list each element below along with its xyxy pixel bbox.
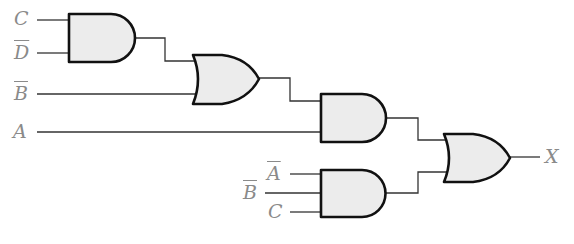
output-label-x: X (545, 147, 559, 166)
input-label-a-bar: A (267, 164, 281, 183)
and-gate-1 (69, 14, 135, 62)
wire-and1-to-or1 (135, 38, 196, 61)
wire-and3-to-or2 (386, 172, 447, 193)
input-label-d-bar: D (14, 43, 29, 62)
and-gate-2 (321, 94, 386, 142)
input-label-c: C (14, 9, 29, 28)
input-label-c-2: C (268, 202, 283, 221)
or-gate-2 (444, 134, 510, 182)
input-label-b-bar: B (14, 84, 28, 103)
or-gate-1 (193, 55, 259, 104)
and-gate-3 (321, 170, 386, 217)
wire-or1-to-and2 (259, 78, 321, 101)
input-label-a: A (13, 122, 27, 141)
input-label-b-bar-2: B (243, 183, 257, 202)
circuit-canvas (0, 0, 574, 244)
wire-and2-to-or2 (386, 118, 447, 140)
